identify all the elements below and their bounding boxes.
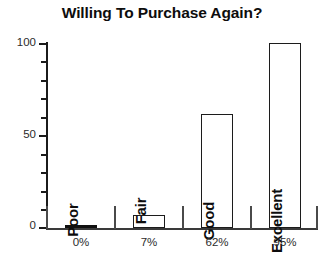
y-minor-tick-20 — [41, 191, 47, 193]
bar-excellent: Excellent — [269, 43, 301, 228]
y-minor-tick-40 — [41, 154, 47, 156]
bar-good: Good — [201, 114, 233, 228]
y-tick-label-50: 50 — [0, 129, 36, 141]
y-minor-tick-30 — [41, 172, 47, 174]
y-minor-tick-60 — [41, 117, 47, 119]
y-minor-tick-90 — [41, 61, 47, 63]
y-tick-50 — [39, 135, 47, 137]
x-label-poor: 0% — [50, 236, 112, 248]
y-tick-label-0: 0 — [0, 220, 36, 232]
x-label-good: 62% — [186, 236, 248, 248]
x-tick-2 — [182, 206, 184, 229]
x-tick-1 — [114, 206, 116, 229]
x-label-excellent: 95% — [254, 236, 316, 248]
bar-poor: Poor — [65, 225, 97, 228]
bar-chart: Willing To Purchase Again? 100 50 0 Poor… — [0, 0, 324, 275]
x-tick-start — [46, 206, 48, 229]
y-minor-tick-80 — [41, 80, 47, 82]
bar-fair: Fair — [133, 215, 165, 228]
bar-label-fair: Fair — [132, 198, 149, 225]
bar-label-poor: Poor — [64, 203, 81, 236]
y-minor-tick-70 — [41, 98, 47, 100]
chart-title: Willing To Purchase Again? — [0, 4, 324, 22]
y-tick-label-100: 100 — [0, 37, 36, 49]
x-tick-end — [316, 206, 318, 229]
bar-label-good: Good — [200, 202, 217, 240]
y-tick-100 — [39, 43, 47, 45]
x-label-fair: 7% — [118, 236, 180, 248]
x-tick-3 — [250, 206, 252, 229]
